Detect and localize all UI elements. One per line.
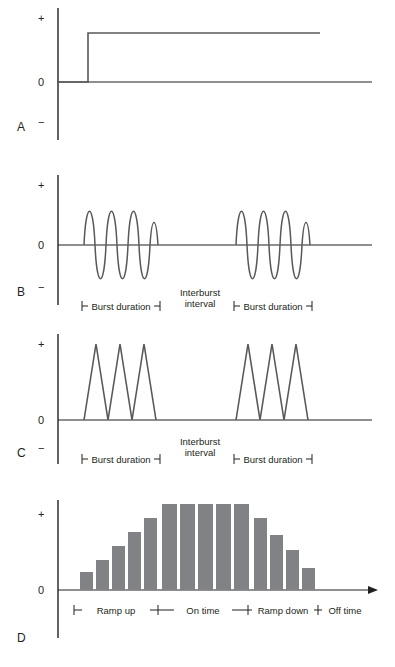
- label-ramp-up: Ramp up: [97, 605, 136, 616]
- bar-series: [80, 504, 315, 590]
- label-interburst: Interburst: [180, 287, 220, 298]
- triangle-burst-2: [236, 344, 308, 420]
- label-ramp-down: Ramp down: [258, 605, 309, 616]
- bar: [198, 504, 213, 590]
- axis-zero-label: 0: [38, 584, 44, 596]
- axis-minus-label: −: [38, 442, 44, 454]
- bar: [286, 550, 299, 590]
- panel-a-graphic: + 0 − A: [0, 0, 395, 152]
- label-burst-duration-1: Burst duration: [91, 301, 150, 312]
- axis-zero-label: 0: [38, 414, 44, 426]
- panel-d-graphic: + 0 D Ramp up: [0, 490, 395, 650]
- axis-zero-label: 0: [38, 76, 44, 88]
- label-interburst: Interburst: [180, 436, 220, 447]
- axis-plus-label: +: [38, 338, 44, 350]
- panel-b: + 0 − B Burst duration Interburst interv…: [0, 160, 395, 320]
- panel-letter-b: B: [17, 285, 25, 299]
- panel-letter-c: C: [17, 446, 26, 460]
- bar: [302, 568, 315, 590]
- label-interval: interval: [185, 298, 216, 309]
- panel-letter-d: D: [17, 631, 26, 645]
- bar: [162, 504, 177, 590]
- axis-plus-label: +: [38, 508, 44, 520]
- bar: [96, 560, 109, 590]
- bar: [112, 546, 125, 590]
- panel-c-graphic: + 0 − C Burst duration Interburst interv…: [0, 322, 395, 482]
- label-interval: interval: [185, 447, 216, 458]
- panel-a: + 0 − A: [0, 0, 395, 152]
- bar: [254, 518, 267, 590]
- label-burst-duration-2: Burst duration: [243, 454, 302, 465]
- triangle-burst-1: [84, 344, 156, 420]
- panel-c: + 0 − C Burst duration Interburst interv…: [0, 322, 395, 482]
- bar: [144, 518, 157, 590]
- label-off-time: Off time: [328, 605, 361, 616]
- axis-minus-label: −: [38, 281, 44, 293]
- axis-plus-label: +: [38, 179, 44, 191]
- panel-letter-a: A: [17, 120, 25, 134]
- label-burst-duration-2: Burst duration: [243, 301, 302, 312]
- square-wave-trace: [58, 33, 320, 82]
- label-on-time: On time: [186, 605, 219, 616]
- bar: [128, 532, 141, 590]
- panel-d: + 0 D Ramp up: [0, 490, 395, 650]
- axis-minus-label: −: [38, 116, 44, 128]
- bar: [234, 504, 249, 590]
- x-axis-arrowhead: [368, 586, 378, 594]
- panel-b-graphic: + 0 − B Burst duration Interburst interv…: [0, 160, 395, 320]
- segment-brackets: Ramp up On time Ramp down Off time: [74, 603, 372, 617]
- axis-plus-label: +: [38, 12, 44, 24]
- bar: [180, 504, 195, 590]
- bar: [270, 535, 283, 590]
- bar: [216, 504, 231, 590]
- label-burst-duration-1: Burst duration: [91, 454, 150, 465]
- axis-zero-label: 0: [38, 239, 44, 251]
- bar: [80, 572, 93, 590]
